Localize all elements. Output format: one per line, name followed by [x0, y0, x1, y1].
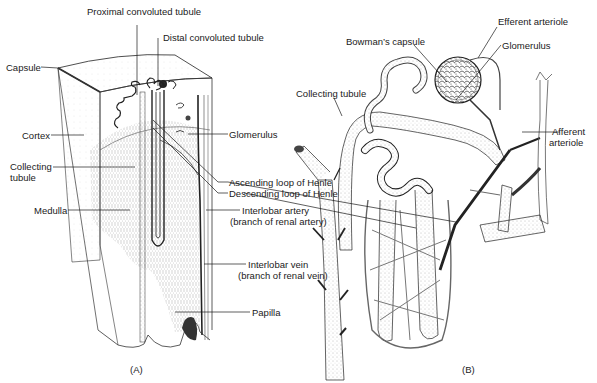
label-capsule: Capsule: [6, 62, 41, 73]
label-papilla: Papilla: [252, 307, 281, 318]
label-collecting-tubule-a-line1: Collecting: [10, 161, 52, 172]
label-medulla: Medulla: [34, 205, 67, 216]
panel-label-a: (A): [130, 364, 143, 375]
label-afferent-arteriole-line2: arteriole: [549, 137, 583, 148]
label-cortex: Cortex: [22, 130, 50, 141]
panel-a-drawing: [58, 55, 212, 348]
label-proximal-convoluted-tubule: Proximal convoluted tubule: [87, 6, 201, 17]
label-glomerulus-a: Glomerulus: [229, 129, 278, 140]
label-interlobar-artery-line2: (branch of renal artery): [230, 216, 327, 227]
label-descending-loop-of-henle: Descending loop of Henle: [229, 188, 338, 199]
label-glomerulus-b: Glomerulus: [502, 40, 551, 51]
label-interlobar-vein-line2: (branch of renal vein): [238, 270, 328, 281]
label-efferent-arteriole: Efferent arteriole: [498, 16, 568, 27]
label-interlobar-vein-line1: Interlobar vein: [248, 259, 308, 270]
panel-label-b: (B): [462, 364, 475, 375]
panel-b-drawing: [294, 57, 552, 380]
label-ascending-loop-of-henle: Ascending loop of Henle: [229, 177, 332, 188]
label-bowmans-capsule: Bowman’s capsule: [346, 36, 425, 47]
label-collecting-tubule-b: Collecting tubule: [296, 88, 366, 99]
label-interlobar-artery-line1: Interlobar artery: [242, 205, 309, 216]
label-afferent-arteriole-line1: Afferent: [552, 126, 585, 137]
label-collecting-tubule-a-line2: tubule: [10, 172, 36, 183]
label-distal-convoluted-tubule: Distal convoluted tubule: [163, 32, 264, 43]
